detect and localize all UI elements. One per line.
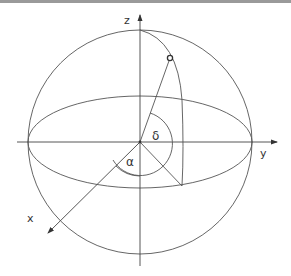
radius-to-equator-foot [140, 142, 182, 186]
star-point-marker [167, 55, 172, 60]
y-axis-label: y [260, 147, 267, 160]
alpha-angle-label: α [126, 155, 134, 169]
z-axis-label: z [124, 14, 130, 27]
sphere-diagram: z y x δ α [0, 0, 291, 276]
origin-point [139, 141, 142, 144]
meridian-arc [140, 30, 183, 186]
x-axis-label: x [27, 212, 34, 225]
delta-angle-label: δ [152, 129, 159, 143]
